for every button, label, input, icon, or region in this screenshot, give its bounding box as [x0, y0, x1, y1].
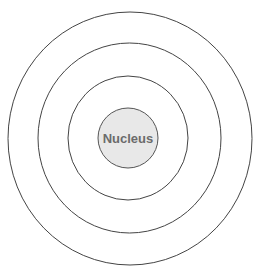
nucleus-label: Nucleus	[103, 131, 154, 146]
atom-diagram: Nucleus	[0, 0, 257, 276]
